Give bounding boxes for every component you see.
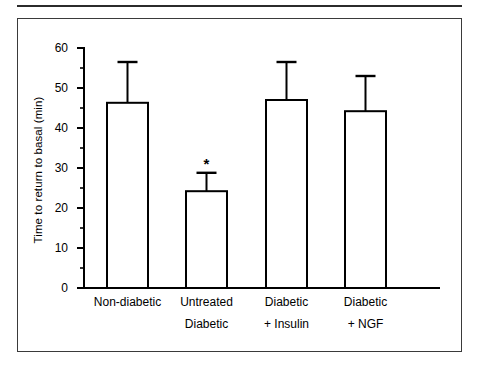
y-axis-title: Time to return to basal (min) bbox=[32, 97, 44, 244]
y-axis-major-ticks bbox=[77, 48, 84, 288]
y-tick-label: 10 bbox=[44, 242, 68, 254]
bar bbox=[266, 100, 307, 288]
x-axis-category-label: Diabetic+ NGF bbox=[311, 295, 421, 331]
bar bbox=[107, 103, 148, 288]
bar bbox=[186, 191, 227, 288]
y-tick-label: 30 bbox=[44, 162, 68, 174]
significance-asterisk: * bbox=[197, 159, 217, 169]
y-tick-label: 50 bbox=[44, 82, 68, 94]
error-bars-layer bbox=[118, 62, 376, 191]
y-tick-label: 0 bbox=[44, 282, 68, 294]
y-tick-label: 60 bbox=[44, 42, 68, 54]
figure-page: Time to return to basal (min) 0102030405… bbox=[0, 0, 478, 370]
y-tick-label: 20 bbox=[44, 202, 68, 214]
bar bbox=[345, 111, 386, 288]
bars-layer bbox=[107, 100, 386, 288]
y-tick-label: 40 bbox=[44, 122, 68, 134]
